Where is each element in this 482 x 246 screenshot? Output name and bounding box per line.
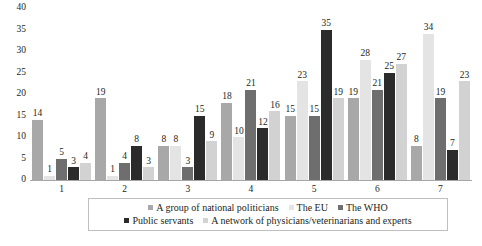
bar[interactable] bbox=[119, 163, 130, 180]
legend-item[interactable]: A group of national politicians bbox=[148, 202, 278, 213]
bar[interactable] bbox=[423, 34, 434, 180]
bar[interactable] bbox=[396, 64, 407, 180]
legend-swatch-icon bbox=[148, 205, 153, 210]
bar[interactable] bbox=[68, 167, 79, 180]
y-axis-tick-label: 20 bbox=[0, 89, 26, 99]
bar[interactable] bbox=[333, 98, 344, 180]
bar[interactable] bbox=[221, 103, 232, 180]
bar-value-label: 16 bbox=[270, 101, 280, 111]
bar-value-label: 15 bbox=[309, 105, 319, 115]
bar-value-label: 8 bbox=[134, 135, 139, 145]
bar[interactable] bbox=[435, 98, 446, 180]
bar-group: 1810211216 bbox=[219, 8, 282, 180]
bar[interactable] bbox=[194, 116, 205, 181]
bar[interactable] bbox=[44, 176, 55, 180]
bar[interactable] bbox=[80, 163, 91, 180]
bar[interactable] bbox=[372, 90, 383, 180]
bar-value-label: 23 bbox=[460, 71, 470, 81]
y-axis-tick-label: 30 bbox=[0, 46, 26, 56]
bar-slot: 7 bbox=[447, 8, 458, 180]
bar-value-label: 19 bbox=[96, 88, 106, 98]
bar-value-label: 12 bbox=[258, 118, 268, 128]
bar[interactable] bbox=[32, 120, 43, 180]
x-axis-line bbox=[30, 180, 472, 181]
bar[interactable] bbox=[459, 81, 470, 180]
bar[interactable] bbox=[285, 116, 296, 181]
bar[interactable] bbox=[309, 116, 320, 181]
bar-value-label: 23 bbox=[297, 71, 307, 81]
legend-row-1: A group of national politiciansThe EUThe… bbox=[93, 202, 443, 213]
legend-item[interactable]: The WHO bbox=[338, 202, 388, 213]
bar-value-label: 21 bbox=[373, 79, 383, 89]
bar-slot: 23 bbox=[459, 8, 470, 180]
bar[interactable] bbox=[56, 159, 67, 181]
bar[interactable] bbox=[384, 73, 395, 181]
bar[interactable] bbox=[206, 141, 217, 180]
bar[interactable] bbox=[233, 137, 244, 180]
legend-label: Public servants bbox=[132, 215, 193, 226]
bar[interactable] bbox=[107, 176, 118, 180]
bar-slot: 15 bbox=[194, 8, 205, 180]
y-axis-tick-label: 5 bbox=[0, 154, 26, 164]
bar-value-label: 8 bbox=[173, 135, 178, 145]
y-axis-tick-label: 40 bbox=[0, 3, 26, 13]
bar[interactable] bbox=[257, 128, 268, 180]
bar-value-label: 10 bbox=[234, 127, 244, 137]
legend-swatch-icon bbox=[203, 218, 208, 223]
bar-value-label: 14 bbox=[33, 109, 43, 119]
bar-slot: 9 bbox=[206, 8, 217, 180]
bar-slot: 19 bbox=[348, 8, 359, 180]
bar-slot: 8 bbox=[158, 8, 169, 180]
bar-value-label: 1 bbox=[110, 165, 115, 175]
bar[interactable] bbox=[447, 150, 458, 180]
y-axis-tick-label: 10 bbox=[0, 132, 26, 142]
bar-slot: 28 bbox=[360, 8, 371, 180]
bar[interactable] bbox=[143, 167, 154, 180]
bar[interactable] bbox=[170, 146, 181, 180]
bar-slot: 19 bbox=[95, 8, 106, 180]
legend-item[interactable]: Public servants bbox=[124, 215, 193, 226]
legend-item[interactable]: A network of physicians/veterinarians an… bbox=[203, 215, 411, 226]
bar-value-label: 5 bbox=[59, 148, 64, 158]
bar-value-label: 25 bbox=[385, 62, 395, 72]
bar[interactable] bbox=[348, 98, 359, 180]
bar-value-label: 19 bbox=[333, 88, 343, 98]
bar[interactable] bbox=[411, 146, 422, 180]
bar-value-label: 8 bbox=[161, 135, 166, 145]
bar-slot: 10 bbox=[233, 8, 244, 180]
bars-layer: 1415341914838831591810211216152315351919… bbox=[30, 8, 472, 180]
bar-value-label: 3 bbox=[185, 157, 190, 167]
bar-value-label: 28 bbox=[361, 49, 371, 59]
legend-item[interactable]: The EU bbox=[289, 202, 328, 213]
bar-group: 1928212527 bbox=[346, 8, 409, 180]
bar[interactable] bbox=[131, 146, 142, 180]
bar-value-label: 4 bbox=[83, 152, 88, 162]
bar[interactable] bbox=[182, 167, 193, 180]
x-axis-tick-label: 2 bbox=[93, 183, 156, 197]
bar-slot: 3 bbox=[68, 8, 79, 180]
x-axis-tick-label: 4 bbox=[219, 183, 282, 197]
bar-slot: 8 bbox=[131, 8, 142, 180]
bar[interactable] bbox=[158, 146, 169, 180]
bar[interactable] bbox=[245, 90, 256, 180]
bar-value-label: 9 bbox=[209, 131, 214, 141]
x-axis-tick-label: 3 bbox=[156, 183, 219, 197]
bar-value-label: 19 bbox=[436, 88, 446, 98]
bar-slot: 8 bbox=[170, 8, 181, 180]
bar[interactable] bbox=[269, 111, 280, 180]
y-axis: 0510152025303540 bbox=[0, 8, 26, 180]
legend-swatch-icon bbox=[338, 205, 343, 210]
bar-slot: 25 bbox=[384, 8, 395, 180]
bar[interactable] bbox=[321, 30, 332, 181]
bar[interactable] bbox=[360, 60, 371, 180]
bar-value-label: 15 bbox=[285, 105, 295, 115]
bar[interactable] bbox=[95, 98, 106, 180]
bar-slot: 34 bbox=[423, 8, 434, 180]
bar-slot: 4 bbox=[80, 8, 91, 180]
bar-slot: 1 bbox=[44, 8, 55, 180]
bar-slot: 15 bbox=[309, 8, 320, 180]
bar-slot: 23 bbox=[297, 8, 308, 180]
bar-value-label: 3 bbox=[71, 157, 76, 167]
bar-slot: 5 bbox=[56, 8, 67, 180]
bar[interactable] bbox=[297, 81, 308, 180]
